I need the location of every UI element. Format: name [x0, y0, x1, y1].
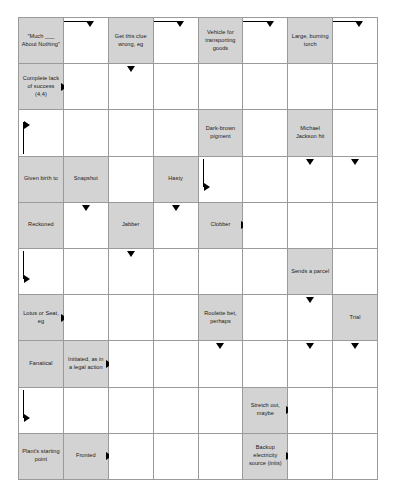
answer-cell[interactable] [64, 110, 109, 156]
answer-cell[interactable] [109, 110, 154, 156]
answer-cell[interactable] [199, 249, 244, 295]
arrow-shaft [23, 122, 24, 154]
answer-cell[interactable] [333, 64, 378, 110]
answer-cell[interactable] [333, 341, 378, 387]
clue-text: Sends a parcel [288, 249, 332, 294]
arrow-head [266, 21, 274, 27]
arrow-down-plain-icon [172, 205, 180, 211]
answer-cell[interactable] [64, 295, 109, 341]
arrow-ell-down-icon [154, 21, 180, 31]
answer-cell[interactable] [199, 388, 244, 434]
answer-cell[interactable] [243, 249, 288, 295]
clue-text: Initiated, as in a legal action [64, 341, 108, 386]
clue-text: Dark-brown pigment [199, 110, 243, 155]
answer-cell[interactable] [154, 110, 199, 156]
answer-cell[interactable] [243, 110, 288, 156]
clue-text: Large, burning torch [288, 18, 332, 63]
answer-cell[interactable] [64, 18, 109, 64]
answer-cell[interactable] [243, 64, 288, 110]
answer-cell[interactable] [154, 295, 199, 341]
answer-cell[interactable] [109, 64, 154, 110]
answer-cell[interactable] [64, 203, 109, 249]
clue-text: Hasty [154, 157, 198, 202]
answer-cell[interactable] [333, 18, 378, 64]
answer-cell[interactable] [109, 388, 154, 434]
arrow-head [204, 183, 210, 191]
answer-cell[interactable] [243, 157, 288, 203]
answer-cell[interactable] [19, 388, 64, 434]
clue-text: Roulette bet, perhaps [199, 295, 243, 340]
answer-cell[interactable] [288, 157, 333, 203]
answer-cell[interactable] [64, 64, 109, 110]
arrow-down-plain-icon [127, 66, 135, 72]
answer-cell[interactable] [199, 341, 244, 387]
clue-text: Stretch out, maybe [243, 388, 287, 433]
answer-cell[interactable] [154, 203, 199, 249]
clue-text: Jabber [109, 203, 153, 248]
answer-cell[interactable] [333, 110, 378, 156]
answer-cell[interactable] [109, 157, 154, 203]
crossword-grid: "Much ___ About Nothing"Get this clue wr… [18, 17, 378, 480]
arrow-head [355, 21, 363, 27]
clue-text: Michael Jackson hit [288, 110, 332, 155]
answer-cell[interactable] [288, 434, 333, 480]
clue-cell: Jabber [109, 203, 154, 249]
answer-cell[interactable] [154, 434, 199, 480]
clue-cell: Roulette bet, perhaps [199, 295, 244, 341]
answer-cell[interactable] [109, 434, 154, 480]
clue-cell: "Much ___ About Nothing" [19, 18, 64, 64]
answer-cell[interactable] [64, 249, 109, 295]
answer-cell[interactable] [288, 341, 333, 387]
clue-cell: Backup electricity source (inits) [243, 434, 288, 480]
arrow-ell-right-icon [23, 390, 33, 418]
answer-cell[interactable] [288, 295, 333, 341]
answer-cell[interactable] [333, 434, 378, 480]
clue-text: Clobber [199, 203, 243, 248]
clue-cell: Stretch out, maybe [243, 388, 288, 434]
answer-cell[interactable] [19, 249, 64, 295]
clue-text: Given birth to [19, 157, 63, 202]
answer-cell[interactable] [154, 64, 199, 110]
answer-cell[interactable] [154, 388, 199, 434]
arrow-down-plain-icon [82, 205, 90, 211]
answer-cell[interactable] [243, 295, 288, 341]
answer-cell[interactable] [154, 18, 199, 64]
clue-text: Lotus or Seat, eg [19, 295, 63, 340]
answer-cell[interactable] [288, 388, 333, 434]
arrow-ell-right-icon [23, 251, 33, 279]
clue-text: Plant's starting point [19, 434, 63, 479]
answer-cell[interactable] [19, 110, 64, 156]
answer-cell[interactable] [109, 295, 154, 341]
clue-cell: Trial [333, 295, 378, 341]
answer-cell[interactable] [199, 64, 244, 110]
clue-cell: Complete lack of success (4,4) [19, 64, 64, 110]
answer-cell[interactable] [154, 249, 199, 295]
arrow-down-plain-icon [306, 343, 314, 349]
answer-cell[interactable] [288, 203, 333, 249]
answer-cell[interactable] [199, 157, 244, 203]
clue-text: Fanatical [19, 341, 63, 386]
answer-cell[interactable] [333, 249, 378, 295]
clue-text: Reckoned [19, 203, 63, 248]
clue-cell: Given birth to [19, 157, 64, 203]
arrow-ell-down-icon [333, 21, 359, 31]
clue-text: Backup electricity source (inits) [243, 434, 287, 479]
clue-cell: Michael Jackson hit [288, 110, 333, 156]
answer-cell[interactable] [64, 388, 109, 434]
answer-cell[interactable] [333, 157, 378, 203]
answer-cell[interactable] [288, 64, 333, 110]
answer-cell[interactable] [199, 434, 244, 480]
answer-cell[interactable] [109, 341, 154, 387]
clue-cell: Snapshot [64, 157, 109, 203]
answer-cell[interactable] [243, 341, 288, 387]
answer-cell[interactable] [333, 203, 378, 249]
arrow-shaft [64, 21, 90, 22]
clue-cell: Fronted [64, 434, 109, 480]
answer-cell[interactable] [154, 341, 199, 387]
arrow-head [86, 21, 94, 27]
answer-cell[interactable] [109, 249, 154, 295]
arrow-down-plain-icon [351, 159, 359, 165]
answer-cell[interactable] [333, 388, 378, 434]
answer-cell[interactable] [243, 203, 288, 249]
answer-cell[interactable] [243, 18, 288, 64]
